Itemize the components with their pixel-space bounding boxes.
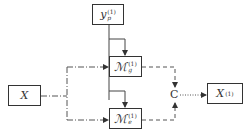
mg-box: ℳ (1)g — [109, 56, 142, 77]
mg-base: ℳ — [114, 60, 127, 74]
x1-sup: (1) — [225, 90, 234, 97]
yp-box: y (1)p — [92, 4, 124, 25]
x-to-models-edges — [41, 67, 108, 120]
me-sub: e — [128, 119, 137, 125]
x-box: X — [8, 85, 41, 106]
x-label: X — [21, 89, 29, 102]
me-box: ℳ (1)e — [109, 108, 142, 129]
c-node-label: C — [170, 88, 178, 101]
me-base: ℳ — [114, 112, 127, 126]
yp-sub: p — [107, 15, 116, 21]
yp-base: y — [100, 8, 106, 21]
mg-sub: g — [128, 67, 137, 73]
x1-base: X — [216, 87, 224, 100]
x1-box: X (1) — [207, 83, 243, 104]
